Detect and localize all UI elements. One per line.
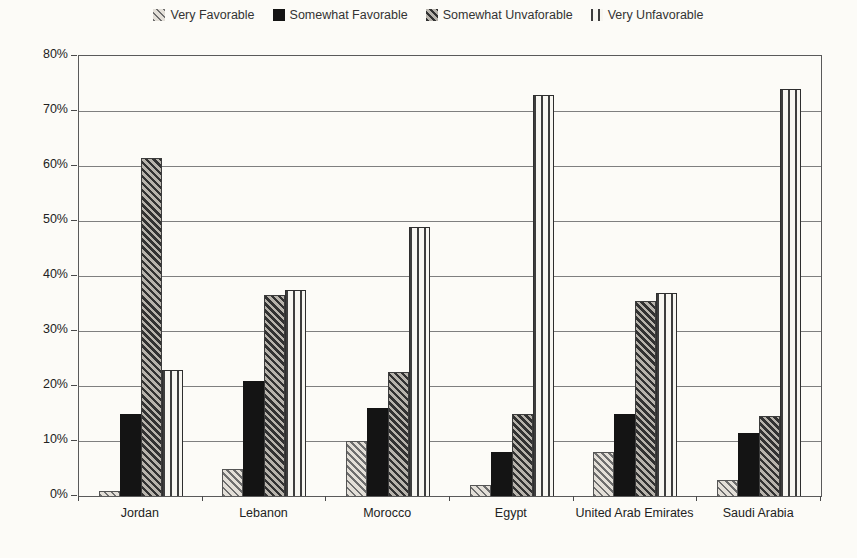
legend-item-very-unfavorable: Very Unfavorable (591, 8, 704, 22)
bar-group-lebanon (203, 56, 327, 496)
y-axis-label-20: 20% (10, 377, 68, 391)
bar-jordan-somewhat-unvaforable (141, 158, 162, 496)
y-axis-label-50: 50% (10, 212, 68, 226)
legend-marker-very-favorable-icon (153, 9, 165, 21)
y-axis-label-80: 80% (10, 47, 68, 61)
plot-area (78, 55, 822, 497)
x-axis-label-egypt: Egypt (451, 505, 571, 522)
bar-morocco-somewhat-favorable (367, 408, 388, 496)
y-axis-tick-20 (71, 385, 77, 386)
bar-saudi-arabia-very-favorable (717, 480, 738, 497)
bar-lebanon-very-unfavorable (285, 290, 306, 496)
y-axis-tick-10 (71, 440, 77, 441)
x-axis-tick-0 (78, 496, 79, 501)
legend-item-somewhat-unvaforable: Somewhat Unvaforable (426, 8, 573, 22)
bar-egypt-very-unfavorable (533, 95, 554, 497)
x-axis-label-saudi-arabia: Saudi Arabia (698, 505, 818, 522)
y-axis-label-70: 70% (10, 102, 68, 116)
bar-united-arab-emirates-very-favorable (593, 452, 614, 496)
x-axis-label-lebanon: Lebanon (204, 505, 324, 522)
y-axis-tick-30 (71, 330, 77, 331)
bar-united-arab-emirates-somewhat-favorable (614, 414, 635, 497)
legend-label: Somewhat Unvaforable (443, 8, 573, 22)
bar-group-saudi-arabia (697, 56, 821, 496)
bar-saudi-arabia-somewhat-favorable (738, 433, 759, 496)
x-axis-tick-3 (449, 496, 450, 501)
bar-jordan-very-unfavorable (162, 370, 183, 497)
bar-jordan-somewhat-favorable (120, 414, 141, 497)
legend-marker-somewhat-favorable-icon (273, 9, 285, 21)
y-axis-label-40: 40% (10, 267, 68, 281)
bar-group-united-arab-emirates (574, 56, 698, 496)
bar-united-arab-emirates-very-unfavorable (656, 293, 677, 497)
bar-egypt-very-favorable (470, 485, 491, 496)
y-axis-tick-0 (71, 495, 77, 496)
chart-legend: Very FavorableSomewhat FavorableSomewhat… (0, 8, 857, 22)
bar-lebanon-somewhat-favorable (243, 381, 264, 497)
x-axis-label-jordan: Jordan (80, 505, 200, 522)
legend-label: Very Favorable (170, 8, 254, 22)
bar-egypt-somewhat-favorable (491, 452, 512, 496)
x-axis-tick-4 (573, 496, 574, 501)
bar-group-egypt (450, 56, 574, 496)
y-axis-tick-70 (71, 110, 77, 111)
y-axis-tick-60 (71, 165, 77, 166)
bar-group-jordan (79, 56, 203, 496)
bar-united-arab-emirates-somewhat-unvaforable (635, 301, 656, 496)
bar-saudi-arabia-very-unfavorable (780, 89, 801, 496)
legend-marker-somewhat-unvaforable-icon (426, 9, 438, 21)
y-axis-label-10: 10% (10, 432, 68, 446)
bar-saudi-arabia-somewhat-unvaforable (759, 416, 780, 496)
x-axis-label-morocco: Morocco (327, 505, 447, 522)
bar-group-morocco (326, 56, 450, 496)
bar-morocco-very-favorable (346, 441, 367, 496)
legend-marker-very-unfavorable-icon (591, 9, 603, 21)
x-axis-label-united-arab-emirates: United Arab Emirates (575, 505, 695, 522)
y-axis-tick-80 (71, 55, 77, 56)
bar-morocco-somewhat-unvaforable (388, 372, 409, 496)
y-axis-label-60: 60% (10, 157, 68, 171)
bar-lebanon-somewhat-unvaforable (264, 295, 285, 496)
scanned-bar-chart-page: Very FavorableSomewhat FavorableSomewhat… (0, 0, 857, 558)
legend-label: Somewhat Favorable (290, 8, 408, 22)
y-axis-tick-50 (71, 220, 77, 221)
legend-item-somewhat-favorable: Somewhat Favorable (273, 8, 408, 22)
y-axis-label-30: 30% (10, 322, 68, 336)
x-axis-tick-2 (325, 496, 326, 501)
bar-morocco-very-unfavorable (409, 227, 430, 497)
x-axis-tick-6 (820, 496, 821, 501)
x-axis-tick-5 (696, 496, 697, 501)
bar-lebanon-very-favorable (222, 469, 243, 497)
legend-label: Very Unfavorable (608, 8, 704, 22)
x-axis-tick-1 (202, 496, 203, 501)
legend-item-very-favorable: Very Favorable (153, 8, 254, 22)
bar-jordan-very-favorable (99, 491, 120, 497)
bar-egypt-somewhat-unvaforable (512, 414, 533, 497)
y-axis-label-0: 0% (10, 487, 68, 501)
y-axis-tick-40 (71, 275, 77, 276)
